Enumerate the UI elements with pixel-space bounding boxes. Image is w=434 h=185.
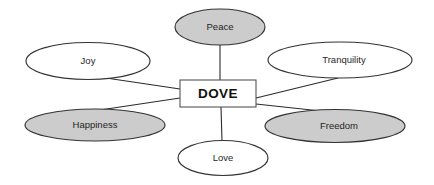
node-happiness-label: Happiness (73, 119, 118, 130)
node-love-label: Love (213, 152, 234, 163)
node-joy-label: Joy (81, 55, 96, 66)
node-tranquility[interactable]: Tranquility (268, 42, 412, 78)
connector-dove-tranquility (256, 78, 338, 98)
connector-dove-happiness (100, 98, 180, 110)
node-freedom-label: Freedom (320, 120, 358, 131)
node-tranquility-label: Tranquility (322, 54, 366, 65)
node-peace[interactable]: Peace (175, 9, 265, 45)
node-happiness[interactable]: Happiness (25, 109, 165, 141)
diagram-canvas: Peace Joy Tranquility Happiness Freedom … (0, 0, 434, 185)
node-peace-label: Peace (207, 21, 234, 32)
concept-map-diagram: Peace Joy Tranquility Happiness Freedom … (0, 0, 434, 185)
node-dove-label: DOVE (198, 86, 238, 101)
connector-dove-joy (106, 78, 180, 89)
connector-dove-love (221, 107, 222, 141)
node-joy[interactable]: Joy (26, 43, 150, 80)
node-freedom[interactable]: Freedom (265, 110, 405, 143)
node-love[interactable]: Love (178, 141, 268, 176)
node-dove-center[interactable]: DOVE (180, 80, 256, 107)
